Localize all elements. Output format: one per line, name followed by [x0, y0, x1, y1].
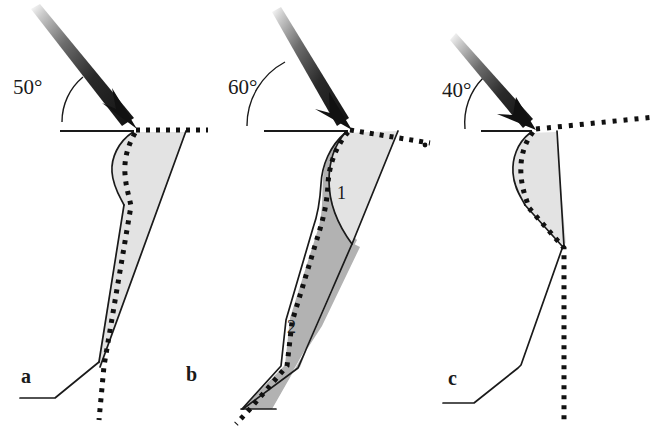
panel-c-stray-dot [423, 143, 428, 148]
panel-c: 40° c [423, 33, 655, 424]
figure-root: 50° a [0, 0, 660, 434]
panel-b: 60° 1 2 b [186, 7, 430, 424]
panel-a: 50° a [13, 4, 208, 420]
panel-a-angle-label: 50° [13, 75, 42, 99]
figure-canvas: 50° a [0, 0, 660, 434]
panel-a-toe-line [20, 362, 99, 398]
panel-c-letter: c [448, 367, 457, 389]
panel-b-zone-2-label: 2 [287, 317, 296, 337]
panel-a-angle-arc [62, 77, 83, 122]
panel-c-angle-label: 40° [442, 78, 471, 102]
panel-c-slope-line [443, 246, 563, 403]
panel-b-letter: b [186, 363, 197, 385]
panel-a-letter: a [21, 365, 31, 387]
panel-b-zone-1-label: 1 [337, 183, 346, 203]
panel-b-angle-label: 60° [228, 75, 257, 99]
panel-c-dotted-ground-right [536, 117, 655, 129]
